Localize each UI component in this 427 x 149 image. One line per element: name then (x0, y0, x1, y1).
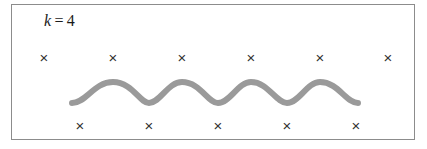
x-marker: × (244, 50, 258, 66)
x-marker: × (349, 118, 363, 134)
x-marker: × (106, 50, 120, 66)
k-symbol: k (44, 12, 51, 29)
x-marker: × (142, 118, 156, 134)
x-marker: × (175, 50, 189, 66)
marker-row-bottom: ××××× (0, 117, 427, 135)
marker-row-top: ×××××× (0, 49, 427, 67)
x-marker: × (381, 50, 395, 66)
x-marker: × (313, 50, 327, 66)
x-marker: × (280, 118, 294, 134)
k-value-label: k=4 (44, 13, 75, 29)
x-marker: × (73, 118, 87, 134)
x-marker: × (37, 50, 51, 66)
k-value: 4 (67, 12, 75, 29)
figure-root: k=4 ×××××× ××××× (0, 0, 427, 149)
x-marker: × (211, 118, 225, 134)
equals-sign: = (54, 12, 63, 29)
